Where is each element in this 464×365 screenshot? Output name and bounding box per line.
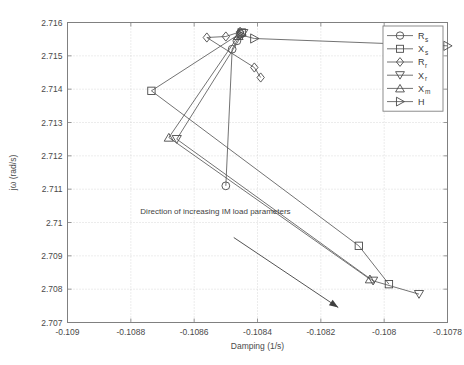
legend-label: R: [418, 31, 425, 41]
x-tick-label: -0.108: [372, 327, 396, 337]
legend-label: H: [418, 97, 425, 107]
y-tick-label: 2.712: [41, 151, 63, 161]
x-tick-label: -0.1078: [433, 327, 462, 337]
y-tick-label: 2.711: [42, 184, 63, 194]
y-tick-label: 2.716: [41, 18, 63, 28]
x-tick-label: -0.1084: [243, 327, 272, 337]
y-tick-label: 2.708: [41, 284, 63, 294]
y-tick-label: 2.707: [41, 318, 63, 328]
x-axis-title: Damping (1/s): [231, 341, 285, 351]
figure-container: -0.109-0.1088-0.1086-0.1084-0.1082-0.108…: [0, 0, 464, 365]
y-tick-label: 2.71: [46, 218, 63, 228]
legend-label: X: [418, 71, 424, 81]
eigenvalue-scatter-chart: -0.109-0.1088-0.1086-0.1084-0.1082-0.108…: [0, 0, 464, 365]
legend-box: [383, 26, 443, 111]
legend-label: R: [418, 57, 425, 67]
y-tick-label: 2.714: [41, 84, 63, 94]
x-tick-label: -0.1086: [180, 327, 209, 337]
y-axis-title: jω (rad/s): [8, 155, 18, 192]
legend-label-subscript: m: [425, 88, 430, 95]
y-tick-label: 2.713: [41, 118, 63, 128]
legend[interactable]: RsXsRrXrXmH: [383, 26, 443, 111]
legend-label: X: [418, 44, 424, 54]
annotation-text: Direction of increasing IM load paramete…: [140, 207, 290, 216]
x-tick-label: -0.1088: [116, 327, 145, 337]
x-tick-label: -0.109: [55, 327, 79, 337]
y-tick-label: 2.715: [41, 51, 63, 61]
x-tick-label: -0.1082: [306, 327, 335, 337]
legend-label: X: [418, 84, 424, 94]
y-tick-label: 2.709: [41, 251, 63, 261]
